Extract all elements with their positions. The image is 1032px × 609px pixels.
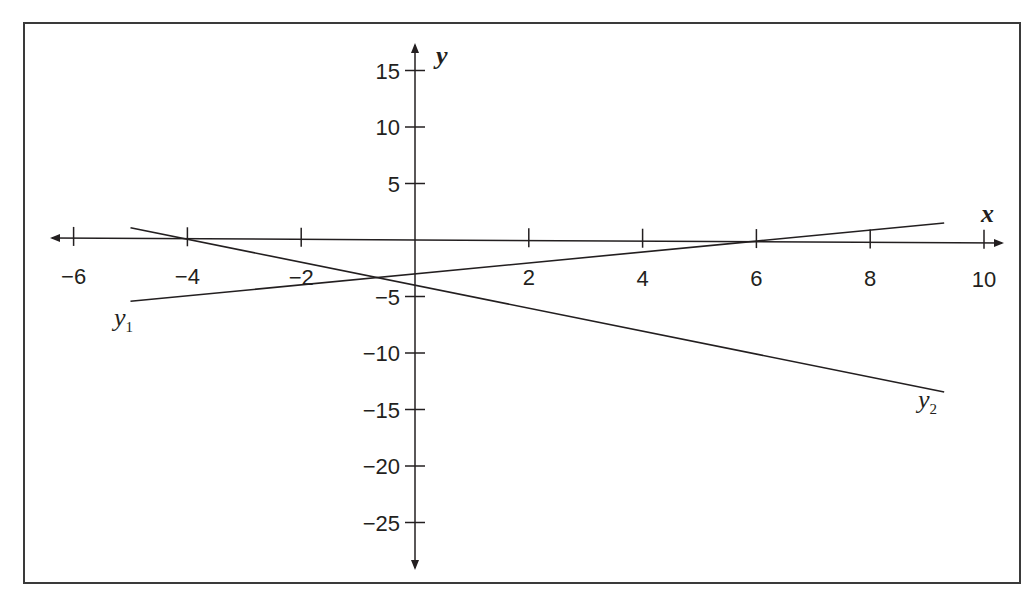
series-lines [131,223,945,392]
y-tick-label: −20 [363,454,400,479]
y-tick-label: −15 [363,398,400,423]
chart-frame [24,23,1020,583]
x-tick-label: 2 [523,265,535,290]
x-tick-label: −4 [175,264,200,289]
x-tick-label: 4 [636,266,648,291]
y-tick-label: 10 [376,115,400,140]
x-axis-label: x [980,199,994,228]
y-tick-label: 15 [376,59,400,84]
x-tick-label: 8 [864,266,876,291]
x-tick-label: 10 [972,267,996,292]
series-line-y1 [131,223,945,301]
x-axis-ticks: −6−4−2246810 [61,227,996,292]
series-label-y1: y1 [111,303,133,335]
y-tick-label: −25 [363,511,400,536]
chart-canvas: −6−4−2246810 15105−5−10−15−20−25 x y y1 … [0,0,1032,609]
y-tick-label: −10 [363,341,400,366]
y-axis-label: y [433,41,448,70]
x-tick-label: 6 [750,266,762,291]
x-tick-label: −6 [61,264,86,289]
y-tick-label: 5 [388,172,400,197]
series-line-y2 [131,228,945,392]
y-tick-label: −5 [375,285,400,310]
